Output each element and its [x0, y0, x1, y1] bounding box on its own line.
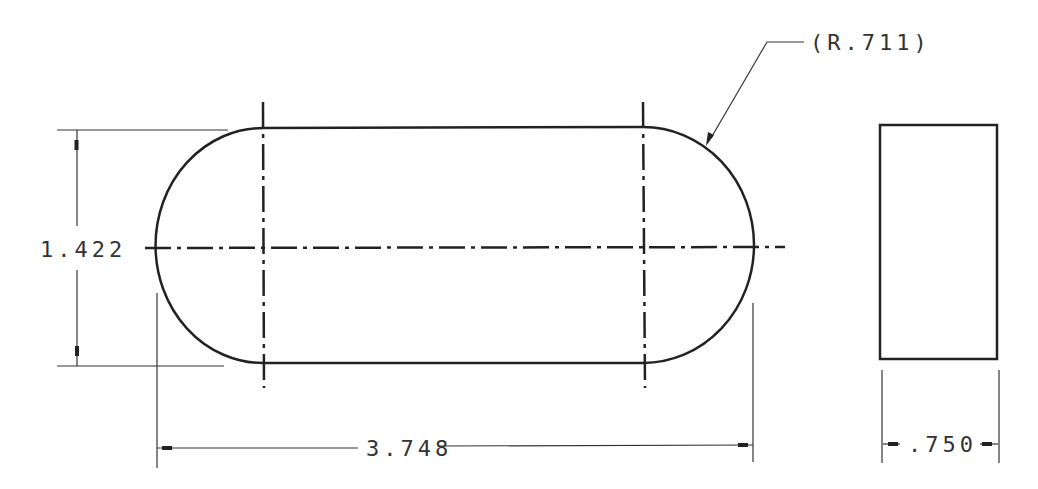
radius-leader	[711, 42, 804, 138]
length-dimension	[157, 293, 753, 468]
side-view-rectangle	[880, 125, 997, 359]
center-lines	[145, 102, 785, 388]
thickness-dimension-label: .750	[908, 432, 977, 457]
height-dimension-label: 1.422	[40, 237, 126, 262]
drawing-canvas: 1.422 3.748 (R.711) .750	[0, 0, 1038, 489]
radius-note-label: (R.711)	[810, 30, 931, 55]
slot-outline	[156, 127, 754, 363]
length-dimension-label: 3.748	[366, 436, 452, 461]
